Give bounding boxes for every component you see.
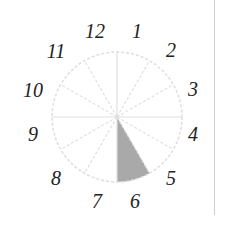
- radial-line: [61, 85, 117, 118]
- clock-face: [52, 52, 182, 182]
- vertical-divider: [214, 0, 215, 215]
- shaded-sector: [117, 117, 150, 182]
- hour-label: 11: [47, 40, 66, 62]
- hour-label: 5: [166, 167, 176, 189]
- hour-label: 6: [130, 190, 140, 212]
- hour-label: 9: [28, 123, 38, 145]
- hour-labels: 121234567891011: [23, 20, 198, 212]
- hour-label: 4: [188, 123, 198, 145]
- radial-line: [117, 61, 150, 117]
- radial-line: [85, 61, 118, 117]
- hour-label: 10: [23, 79, 43, 101]
- clock-diagram: 121234567891011: [0, 0, 225, 228]
- hour-label: 3: [187, 78, 198, 100]
- hour-label: 1: [132, 20, 142, 42]
- hour-label: 2: [166, 39, 176, 61]
- hour-label: 8: [51, 167, 61, 189]
- radial-line: [85, 117, 118, 173]
- radial-line: [117, 85, 173, 118]
- radial-line: [61, 117, 117, 150]
- hour-label: 7: [92, 190, 103, 212]
- hour-label: 12: [85, 20, 105, 42]
